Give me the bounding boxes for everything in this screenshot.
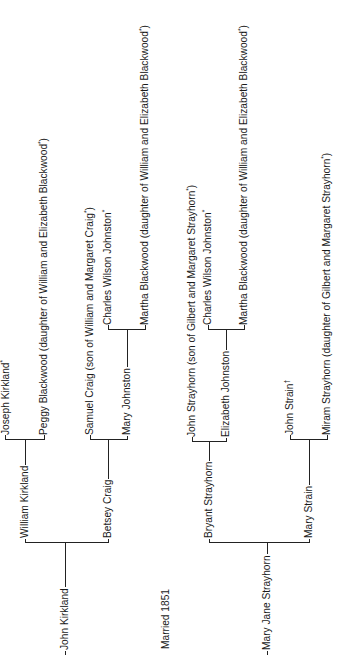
person-joseph-kirkland: Joseph Kirkland* xyxy=(0,359,12,436)
person-martha-blackwood-2: Martha Blackwood (daughter of William an… xyxy=(238,24,250,326)
person-mary-jane-strayhorn: Mary Jane Strayhorn xyxy=(261,554,273,651)
bracket-line xyxy=(25,542,109,543)
bracket-line xyxy=(209,542,310,543)
bracket-line xyxy=(192,441,227,442)
person-miram-strayhorn: Miram Strayhorn (daughter of Gilbert and… xyxy=(321,152,333,436)
marriage-note: Married 1851 xyxy=(160,588,172,650)
bracket-line xyxy=(290,439,328,440)
person-samuel-craig: Samuel Craig (son of William and Margare… xyxy=(84,206,96,436)
person-john-kirkland: John Kirkland xyxy=(59,587,71,651)
bracket-line xyxy=(208,329,245,330)
bracket-line xyxy=(5,439,45,440)
person-peggy-blackwood: Peggy Blackwood (daughter of William and… xyxy=(38,137,50,436)
person-john-strain: John Strain† xyxy=(284,379,296,436)
person-john-strayhorn: John Strayhorn (son of Gilbert and Marga… xyxy=(186,184,198,438)
person-bryant-strayhorn: Bryant Strayhorn xyxy=(203,461,215,539)
person-mary-johnston: Mary Johnston xyxy=(121,367,133,436)
person-elizabeth-johnston: Elizabeth Johnston xyxy=(220,350,232,438)
bracket-line xyxy=(108,329,146,330)
pedigree-chart: John Kirkland William Kirkland Joseph Ki… xyxy=(0,0,339,666)
bracket-line xyxy=(90,439,128,440)
person-charles-wilson-johnston-2: Charles Wilson Johnston* xyxy=(202,209,214,326)
person-mary-strain: Mary Strain xyxy=(303,485,315,539)
person-betsey-craig: Betsey Craig xyxy=(102,479,114,539)
person-william-kirkland: William Kirkland xyxy=(19,465,31,539)
person-martha-blackwood: Martha Blackwood (daughter of William an… xyxy=(139,24,151,326)
person-charles-wilson-johnston: Charles Wilson Johnston* xyxy=(102,209,114,326)
